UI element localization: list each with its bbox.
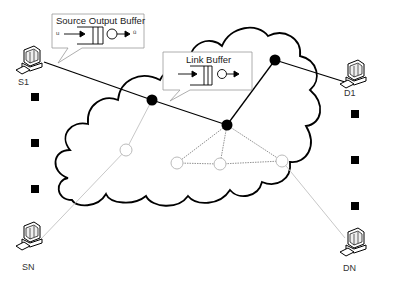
host-label-dn: DN (343, 263, 356, 273)
host-label-d1: D1 (344, 88, 356, 98)
source-output-buffer-title: Source Output Buffer (56, 15, 145, 26)
ellipsis-markers-left (31, 93, 39, 193)
computer-icon-sn[interactable] (16, 222, 42, 250)
host-label-sn: SN (22, 262, 35, 272)
link-buffer-title: Link Buffer (186, 54, 231, 65)
router-node-inactive[interactable] (120, 144, 132, 156)
router-node-inactive[interactable] (171, 157, 183, 169)
router-node-inactive[interactable] (214, 158, 226, 170)
computer-icon-dn[interactable] (340, 228, 366, 256)
input-rate-symbol: u (56, 30, 59, 36)
router-node-active[interactable] (222, 120, 233, 131)
router-node-inactive[interactable] (276, 155, 288, 167)
output-rate-symbol: ū (133, 29, 136, 35)
host-label-s1: S1 (18, 77, 29, 87)
computer-icon-s1[interactable] (16, 46, 42, 74)
router-node-active[interactable] (270, 55, 281, 66)
computer-icon-d1[interactable] (340, 60, 366, 88)
router-node-active[interactable] (147, 95, 158, 106)
ellipsis-markers-right (351, 110, 359, 210)
network-diagram (0, 0, 394, 287)
